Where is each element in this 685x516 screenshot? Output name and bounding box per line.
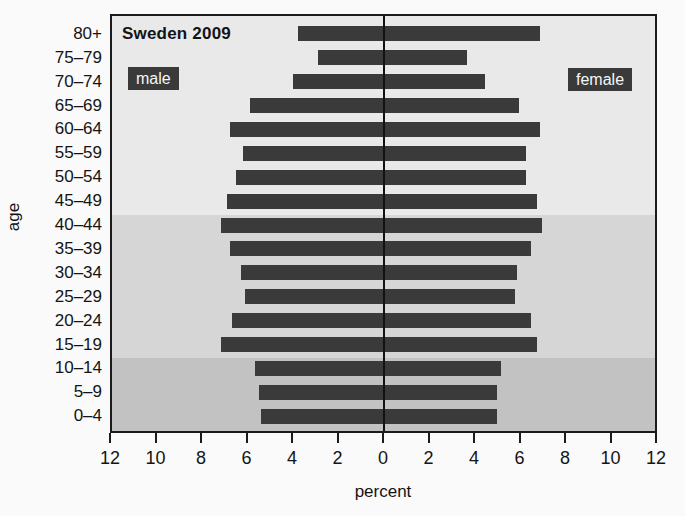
bar-female-35–39	[384, 241, 531, 256]
age-label-45–49: 45–49	[0, 191, 102, 211]
age-label-20–24: 20–24	[0, 311, 102, 331]
bar-female-70–74	[384, 74, 486, 89]
x-tick-0	[382, 433, 384, 443]
x-tick-2-left	[337, 433, 339, 443]
bar-female-60–64	[384, 122, 540, 137]
x-axis-title: percent	[333, 482, 433, 502]
bar-male-5–9	[259, 385, 383, 400]
bar-male-15–19	[221, 337, 384, 352]
bar-female-50–54	[384, 170, 527, 185]
x-tick-12-right	[655, 433, 657, 443]
bar-female-80+	[384, 26, 540, 41]
chart-title: Sweden 2009	[122, 24, 231, 44]
x-tick-2-right	[428, 433, 430, 443]
bar-male-40–44	[221, 218, 384, 233]
x-tick-6-left	[246, 433, 248, 443]
x-tick-10-left	[155, 433, 157, 443]
x-tick-8-left	[200, 433, 202, 443]
age-label-30–34: 30–34	[0, 263, 102, 283]
bar-male-80+	[298, 26, 384, 41]
bar-male-35–39	[230, 241, 384, 256]
bar-male-60–64	[230, 122, 384, 137]
age-label-0–4: 0–4	[0, 406, 102, 426]
bar-female-55–59	[384, 146, 527, 161]
age-label-25–29: 25–29	[0, 287, 102, 307]
zero-axis-line	[383, 16, 385, 431]
bar-female-30–34	[384, 265, 517, 280]
bar-male-70–74	[293, 74, 384, 89]
bar-female-5–9	[384, 385, 497, 400]
x-tick-10-right	[610, 433, 612, 443]
male-series-label: male	[128, 67, 179, 90]
x-tick-label-4-right: 4	[452, 448, 496, 469]
x-tick-4-left	[291, 433, 293, 443]
bar-female-25–29	[384, 289, 515, 304]
age-label-15–19: 15–19	[0, 335, 102, 355]
age-label-40–44: 40–44	[0, 215, 102, 235]
x-tick-label-10-right: 10	[589, 448, 633, 469]
bar-male-75–79	[318, 50, 384, 65]
bar-male-30–34	[241, 265, 384, 280]
bar-female-0–4	[384, 409, 497, 424]
age-label-60–64: 60–64	[0, 119, 102, 139]
bar-female-45–49	[384, 194, 538, 209]
age-label-55–59: 55–59	[0, 143, 102, 163]
bar-male-20–24	[232, 313, 384, 328]
x-tick-label-2-left: 2	[316, 448, 360, 469]
bar-female-15–19	[384, 337, 538, 352]
population-pyramid-figure: age Sweden 2009 male female 80+75–7970–7…	[0, 0, 685, 516]
x-tick-label-8-right: 8	[543, 448, 587, 469]
age-label-70–74: 70–74	[0, 72, 102, 92]
x-tick-label-0: 0	[361, 448, 405, 469]
age-label-35–39: 35–39	[0, 239, 102, 259]
x-tick-label-12-right: 12	[634, 448, 678, 469]
bar-male-25–29	[245, 289, 383, 304]
bar-female-40–44	[384, 218, 542, 233]
female-series-label: female	[568, 68, 632, 91]
x-tick-label-10-left: 10	[134, 448, 178, 469]
x-tick-8-right	[564, 433, 566, 443]
x-tick-12-left	[109, 433, 111, 443]
bar-male-50–54	[236, 170, 383, 185]
x-tick-4-right	[473, 433, 475, 443]
bar-male-55–59	[243, 146, 383, 161]
x-tick-label-12-left: 12	[88, 448, 132, 469]
age-label-50–54: 50–54	[0, 167, 102, 187]
age-label-65–69: 65–69	[0, 96, 102, 116]
bar-male-65–69	[250, 98, 383, 113]
x-tick-label-8-left: 8	[179, 448, 223, 469]
bar-female-75–79	[384, 50, 468, 65]
bar-female-10–14	[384, 361, 502, 376]
x-tick-label-4-left: 4	[270, 448, 314, 469]
bar-female-65–69	[384, 98, 520, 113]
age-label-75–79: 75–79	[0, 48, 102, 68]
bar-male-45–49	[227, 194, 383, 209]
x-tick-label-6-left: 6	[225, 448, 269, 469]
age-label-5–9: 5–9	[0, 382, 102, 402]
x-tick-label-2-right: 2	[407, 448, 451, 469]
age-label-10–14: 10–14	[0, 358, 102, 378]
age-label-80+: 80+	[0, 24, 102, 44]
bar-male-0–4	[261, 409, 383, 424]
bar-male-10–14	[255, 361, 384, 376]
x-tick-label-6-right: 6	[498, 448, 542, 469]
bar-female-20–24	[384, 313, 531, 328]
plot-area: Sweden 2009 male female	[110, 14, 657, 433]
x-tick-6-right	[519, 433, 521, 443]
